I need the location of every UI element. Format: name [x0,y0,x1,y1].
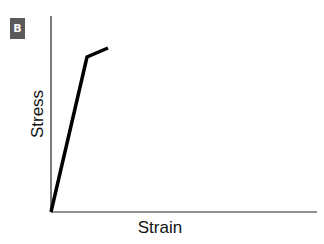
y-axis-label: Stress [28,90,48,138]
x-axis-label: Strain [110,218,210,238]
stress-strain-chart [0,0,324,244]
stress-strain-line [51,48,108,212]
